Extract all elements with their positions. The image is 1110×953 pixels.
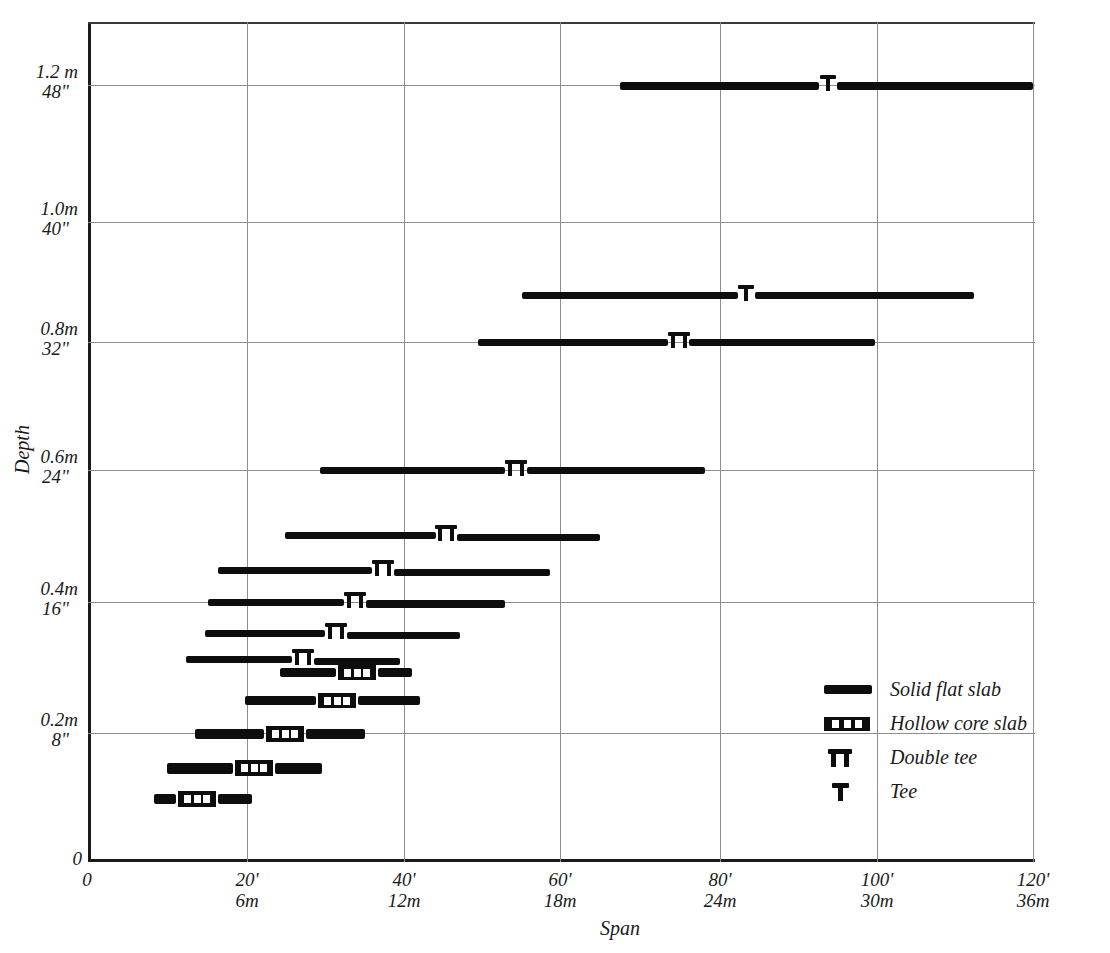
solid-flat-slab-icon (814, 676, 890, 702)
data-segment-double-tee-0_45m-left (218, 567, 372, 574)
data-segment-solid-slab-0_19m-right (306, 729, 365, 739)
y-tick-0_2m: 0.2m 8" (0, 710, 78, 750)
legend-item-tee: Tee (814, 774, 1084, 808)
plot-top-border (88, 22, 1035, 24)
x-tick-100ft: 100' 30m (832, 869, 922, 912)
data-segment-solid-slab-0_14m-right (275, 763, 322, 774)
data-segment-double-tee-0_5m-right (457, 534, 600, 541)
x-tick-40ft: 40' 12m (359, 869, 449, 912)
data-segment-double-tee-0_6m-right (527, 467, 705, 474)
x-tick-zero: 0 (72, 869, 102, 891)
data-segment-solid-slab-0_09m-right (218, 794, 252, 804)
hollow-core-slab-icon (266, 726, 304, 742)
data-segment-solid-slab-0_09m-left (154, 794, 176, 804)
legend-label-hollow-core-slab: Hollow core slab (890, 712, 1027, 735)
hollow-core-slab-icon (814, 710, 890, 736)
data-segment-tee-1_2m-right (837, 82, 1033, 90)
hollow-core-slab-icon (178, 791, 216, 807)
data-segment-double-tee-0_35m-right (347, 632, 460, 639)
legend-item-double-tee: Double tee (814, 740, 1084, 774)
hollow-core-slab-icon (338, 665, 376, 680)
x-tick-120ft: 120' 36m (988, 869, 1078, 912)
y-axis-title: Depth (11, 410, 34, 490)
data-segment-double-tee-0_4m-right (366, 600, 505, 608)
legend-item-hollow-core-slab: Hollow core slab (814, 706, 1084, 740)
data-segment-solid-slab-0_29m-right (378, 668, 412, 677)
tee-icon (814, 778, 890, 804)
y-tick-0_8m: 0.8m 32" (0, 319, 78, 359)
data-segment-tee-1_2m-left (620, 82, 819, 90)
data-segment-double-tee-0_6m-left (320, 467, 505, 474)
x-axis-title: Span (560, 917, 680, 940)
vgrid-60ft (560, 22, 561, 862)
x-tick-20ft: 20' 6m (202, 869, 292, 912)
data-segment-double-tee-0_45m-right (394, 569, 550, 576)
data-segment-double-tee-0_4m-left (208, 599, 344, 606)
hollow-core-slab-icon (235, 760, 273, 776)
x-tick-80ft: 80' 24m (675, 869, 765, 912)
legend-label-solid-flat-slab: Solid flat slab (890, 678, 1001, 701)
y-tick-1_0m: 1.0m 40" (0, 199, 78, 239)
vgrid-80ft (720, 22, 721, 862)
y-tick-0_4m: 0.4m 16" (0, 579, 78, 619)
data-segment-double-tee-0_31m-right (314, 658, 400, 665)
data-segment-tee-0_9m-left (522, 292, 738, 299)
vgrid-40ft (404, 22, 405, 862)
data-segment-double-tee-0_8m-right (689, 339, 875, 346)
data-segment-double-tee-0_35m-left (205, 630, 325, 637)
data-segment-solid-slab-0_24m-left (245, 696, 316, 705)
data-segment-double-tee-0_31m-left (186, 656, 292, 663)
x-tick-60ft: 60' 18m (515, 869, 605, 912)
legend: Solid flat slab Hollow core slab Double … (814, 672, 1084, 808)
x-axis-line (88, 859, 1035, 862)
y-axis-line (88, 22, 91, 862)
data-segment-solid-slab-0_19m-left (195, 729, 264, 739)
data-segment-solid-slab-0_24m-right (358, 696, 420, 705)
hollow-core-slab-icon (318, 693, 356, 708)
y-tick-zero: 0 (62, 848, 82, 870)
legend-label-double-tee: Double tee (890, 746, 977, 769)
plot-area: Solid flat slab Hollow core slab Double … (88, 22, 1035, 862)
legend-item-solid-flat-slab: Solid flat slab (814, 672, 1084, 706)
data-segment-double-tee-0_5m-left (285, 532, 436, 539)
data-segment-solid-slab-0_14m-left (167, 763, 233, 774)
double-tee-icon (814, 744, 890, 770)
data-segment-tee-0_9m-right (755, 292, 974, 299)
data-segment-solid-slab-0_29m-left (280, 668, 336, 677)
data-segment-double-tee-0_8m-left (478, 339, 668, 346)
legend-label-tee: Tee (890, 780, 917, 803)
chart-canvas: Solid flat slab Hollow core slab Double … (0, 0, 1110, 953)
y-tick-1_2m: 1.2 m 48" (0, 62, 78, 102)
hgrid-1_0m (88, 222, 1035, 223)
